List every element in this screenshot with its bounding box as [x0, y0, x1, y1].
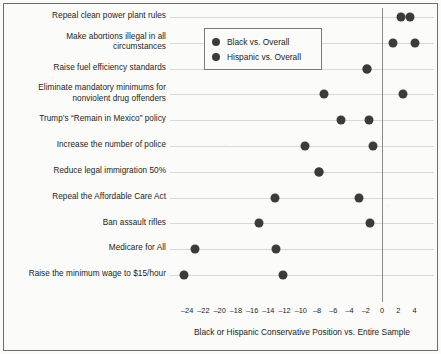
x-axis-tick-label: 2: [396, 306, 400, 315]
x-axis-tick-label: –18: [230, 306, 242, 315]
zero-reference-line: [382, 8, 383, 302]
x-axis-tick-label: –24: [181, 306, 193, 315]
data-point: [399, 90, 408, 99]
data-point: [319, 90, 328, 99]
gridline: [170, 17, 434, 18]
data-point: [397, 13, 406, 22]
data-point: [314, 167, 323, 176]
y-axis-category-label: Repeal the Affordable Care Act: [8, 192, 166, 203]
legend-marker-icon: [212, 53, 220, 61]
x-axis-tick-label: 4: [412, 306, 416, 315]
y-axis-category-label: Eliminate mandatory minimums for nonviol…: [8, 83, 166, 104]
data-point: [365, 116, 374, 125]
x-axis-tick-label: –2: [362, 306, 370, 315]
legend-item[interactable]: Black vs. Overall: [212, 34, 312, 49]
y-axis-category-label: Medicare for All: [8, 243, 166, 254]
data-point: [405, 13, 414, 22]
y-axis-category-label: Repeal clean power plant rules: [8, 11, 166, 22]
data-point: [369, 142, 378, 151]
x-axis-tick-label: –6: [329, 306, 337, 315]
x-axis-tick-label: –14: [262, 306, 274, 315]
y-axis-category-label: Increase the number of police: [8, 140, 166, 151]
data-point: [278, 271, 287, 280]
y-axis-category-label: Trump’s “Remain in Mexico” policy: [8, 114, 166, 125]
x-axis-tick-label: 0: [380, 306, 384, 315]
plot-area: Repeal clean power plant rulesMake abort…: [0, 0, 441, 354]
gridline: [170, 198, 434, 199]
x-axis-tick-label: –12: [278, 306, 290, 315]
data-point: [271, 245, 280, 254]
legend-item-label: Black vs. Overall: [227, 37, 289, 47]
data-point: [300, 142, 309, 151]
legend-item[interactable]: Hispanic vs. Overall: [212, 49, 312, 64]
x-axis-tick-label: –16: [246, 306, 258, 315]
chart-figure: Repeal clean power plant rulesMake abort…: [0, 0, 441, 354]
legend: Black vs. OverallHispanic vs. Overall: [204, 28, 322, 70]
y-axis-category-label: Reduce legal immigration 50%: [8, 166, 166, 177]
x-axis-tick-label: –22: [197, 306, 209, 315]
y-axis-category-label: Ban assault rifles: [8, 218, 166, 229]
x-axis-tick-label: –8: [313, 306, 321, 315]
data-point: [270, 193, 279, 202]
data-point: [191, 245, 200, 254]
gridline: [170, 275, 434, 276]
data-point: [363, 64, 372, 73]
x-axis-tick-label: –10: [295, 306, 307, 315]
data-point: [365, 219, 374, 228]
y-axis-category-label: Make abortions illegal in all circumstan…: [8, 32, 166, 53]
y-axis-category-label: Raise fuel efficiency standards: [8, 63, 166, 74]
y-axis-category-label: Raise the minimum wage to $15/hour: [8, 269, 166, 280]
data-point: [179, 271, 188, 280]
gridline: [170, 223, 434, 224]
x-axis-tick-label: –4: [345, 306, 353, 315]
gridline: [170, 94, 434, 95]
legend-marker-icon: [212, 38, 220, 46]
data-point: [255, 219, 264, 228]
gridline: [170, 249, 434, 250]
x-axis-tick-label: –20: [213, 306, 225, 315]
data-point: [355, 193, 364, 202]
gridline: [170, 120, 434, 121]
data-point: [411, 38, 420, 47]
data-point: [389, 38, 398, 47]
x-axis-title: Black or Hispanic Conservative Position …: [194, 327, 410, 337]
gridline: [170, 172, 434, 173]
legend-item-label: Hispanic vs. Overall: [227, 52, 301, 62]
data-point: [336, 116, 345, 125]
